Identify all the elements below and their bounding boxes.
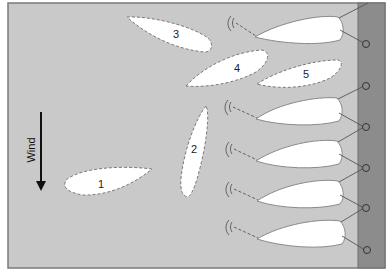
bollard-icon bbox=[364, 247, 371, 254]
mooring-diagram: Wind 1 2 3 4 5 bbox=[0, 0, 388, 274]
bollard-icon bbox=[363, 165, 370, 172]
position-label: 1 bbox=[98, 178, 104, 190]
position-label: 3 bbox=[173, 28, 179, 40]
position-label: 4 bbox=[234, 62, 240, 74]
position-label: 5 bbox=[303, 68, 309, 80]
quay-wall bbox=[358, 3, 385, 268]
bollard-icon bbox=[363, 41, 370, 48]
wind-label: Wind bbox=[25, 137, 37, 162]
position-label: 2 bbox=[191, 143, 197, 155]
bollard-icon bbox=[363, 205, 370, 212]
bollard-icon bbox=[363, 124, 370, 131]
bollard-icon bbox=[363, 83, 370, 90]
